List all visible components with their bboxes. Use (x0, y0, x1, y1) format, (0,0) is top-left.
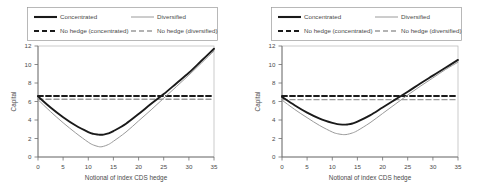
legend-label-no-hedge-diversified: No hedge (diversified) (157, 27, 218, 34)
chart-svg-right: Concentrated Diversified No hedge (conce… (244, 0, 489, 192)
y-tick-label: 6 (28, 98, 32, 105)
legend-label-concentrated: Concentrated (304, 13, 342, 20)
x-tick-label: 5 (61, 163, 65, 170)
x-tick-label: 0 (36, 163, 40, 170)
y-tick-label: 2 (272, 135, 276, 142)
plot-area-right: 0 2 4 6 8 10 12 Capital (254, 42, 462, 182)
legend-box-right: Concentrated Diversified No hedge (conce… (272, 8, 462, 41)
y-tick-label: 12 (25, 42, 32, 49)
y-tick-label: 8 (28, 79, 32, 86)
legend-label-no-hedge-concentrated: No hedge (concentrated) (60, 27, 128, 34)
y-axis-title: Capital (10, 92, 18, 112)
chart-panel-left: Concentrated Diversified No hedge (conce… (0, 0, 244, 192)
y-tick-label: 2 (28, 135, 32, 142)
x-tick-label: 35 (211, 163, 218, 170)
y-tick-label: 4 (272, 116, 276, 123)
y-axis-left: 0 2 4 6 8 10 12 Capital (10, 42, 38, 160)
two-panel-figure: Concentrated Diversified No hedge (conce… (0, 0, 489, 192)
x-tick-label: 5 (305, 163, 309, 170)
y-tick-label: 10 (25, 61, 32, 68)
x-tick-label: 20 (135, 163, 142, 170)
x-tick-label: 15 (354, 163, 361, 170)
x-axis-title: Notional of index CDS hedge (85, 174, 168, 182)
y-axis-title: Capital (254, 92, 262, 112)
x-tick-label: 35 (455, 163, 462, 170)
y-axis-right: 0 2 4 6 8 10 12 Capital (254, 42, 282, 160)
x-axis-left: 0 5 10 15 20 25 30 35 Notional of index … (36, 157, 218, 182)
legend-label-diversified: Diversified (157, 13, 186, 20)
y-tick-label: 6 (272, 98, 276, 105)
legend-label-diversified: Diversified (401, 13, 430, 20)
legend-label-no-hedge-concentrated: No hedge (concentrated) (304, 27, 372, 34)
legend-label-concentrated: Concentrated (60, 13, 98, 20)
x-axis-right: 0 5 10 15 20 25 30 35 Notional of index … (280, 157, 462, 182)
y-tick-label: 10 (269, 61, 276, 68)
y-tick-label: 8 (272, 79, 276, 86)
plot-area-left: 0 2 4 6 8 10 12 Capital (10, 42, 218, 182)
x-tick-label: 25 (160, 163, 167, 170)
x-tick-label: 15 (110, 163, 117, 170)
legend-label-no-hedge-diversified: No hedge (diversified) (401, 27, 462, 34)
x-tick-label: 0 (280, 163, 284, 170)
legend-box-left: Concentrated Diversified No hedge (conce… (28, 8, 218, 41)
x-tick-label: 25 (404, 163, 411, 170)
x-tick-label: 10 (329, 163, 336, 170)
chart-panel-right: Concentrated Diversified No hedge (conce… (244, 0, 488, 192)
x-tick-label: 10 (85, 163, 92, 170)
y-tick-label: 0 (28, 153, 32, 160)
x-tick-label: 30 (429, 163, 436, 170)
y-tick-label: 0 (272, 153, 276, 160)
chart-svg-left: Concentrated Diversified No hedge (conce… (0, 0, 244, 192)
x-axis-title: Notional of index CDS hedge (329, 174, 412, 182)
x-tick-label: 30 (185, 163, 192, 170)
y-tick-label: 12 (269, 42, 276, 49)
x-tick-label: 20 (379, 163, 386, 170)
y-tick-label: 4 (28, 116, 32, 123)
